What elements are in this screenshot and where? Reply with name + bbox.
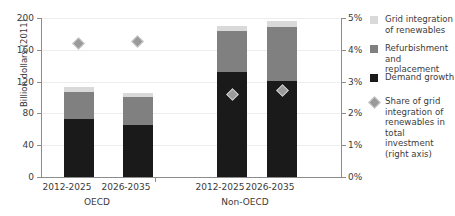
legend-label-line1: Demand growth (385, 72, 455, 83)
legend-label-line1: Share of grid (385, 96, 455, 107)
legend-label-line2: integration of (385, 107, 455, 118)
y2-tick-mark (342, 82, 346, 83)
legend-swatch-square-icon (370, 74, 378, 82)
y-tick-label-40: 40 (0, 141, 34, 150)
legend-label-line3: renewables in (385, 117, 455, 128)
y2-axis-spine (341, 18, 342, 178)
x-group-label-oecd: OECD (62, 198, 132, 207)
legend-label-line5: (right axis) (385, 149, 455, 160)
bar-segment-grid-integration (267, 21, 297, 27)
y-tick-label-200: 200 (0, 14, 34, 23)
legend-swatch-square-icon (370, 45, 378, 53)
y2-tick-mark (342, 145, 346, 146)
bar-segment-grid-integration (123, 93, 153, 97)
y-tick-label-120: 120 (0, 78, 34, 87)
bar-non-oecd-2026-2035[interactable] (267, 21, 297, 177)
legend-item-demand-growth[interactable]: Demand growth (370, 72, 455, 84)
bar-segment-refurbishment (123, 97, 153, 125)
y2-tick-mark (342, 50, 346, 51)
bar-segment-refurbishment (64, 92, 94, 119)
legend-swatch-square-icon (370, 16, 378, 24)
x-tick-label-non-oecd-2026-2035: 2026-2035 (235, 183, 305, 192)
chart-container: Billion dollars (2011) 200 160 120 80 40… (0, 0, 455, 216)
marker-share-oecd-2012-2025[interactable] (72, 37, 85, 50)
legend-item-grid-integration[interactable]: Grid integration of renewables (370, 14, 455, 36)
y2-tick-label-0pct: 0% (348, 173, 378, 182)
bar-oecd-2026-2035[interactable] (123, 93, 153, 177)
y-tick-label-80: 80 (0, 109, 34, 118)
bar-segment-refurbishment (267, 27, 297, 81)
x-axis-group-separator-tick (155, 178, 156, 182)
plot-area (42, 18, 340, 177)
legend-item-refurbishment[interactable]: Refurbishment and replacement (370, 43, 455, 65)
bar-segment-demand-growth (64, 119, 94, 177)
legend: Grid integration of renewables Refurbish… (370, 14, 455, 163)
y2-tick-mark (342, 177, 346, 178)
x-axis-spine (41, 177, 341, 178)
marker-share-oecd-2026-2035[interactable] (131, 35, 144, 48)
legend-label-line1: Refurbishment (385, 43, 455, 54)
y-tick-label-0: 0 (0, 173, 34, 182)
y2-tick-mark (342, 113, 346, 114)
x-group-label-non-oecd: Non-OECD (210, 198, 280, 207)
bar-oecd-2012-2025[interactable] (64, 87, 94, 177)
bar-segment-grid-integration (217, 26, 247, 31)
x-tick-label-oecd-2026-2035: 2026-2035 (91, 183, 161, 192)
legend-swatch-diamond-icon (368, 96, 381, 109)
y-tick-label-160: 160 (0, 46, 34, 55)
legend-item-share-marker[interactable]: Share of grid integration of renewables … (370, 96, 455, 156)
legend-label-line4: total investment (385, 128, 455, 149)
legend-label-line2: of renewables (385, 25, 455, 36)
bar-segment-refurbishment (217, 31, 247, 72)
bar-segment-demand-growth (123, 125, 153, 177)
y2-tick-mark (342, 18, 346, 19)
bar-segment-grid-integration (64, 87, 94, 92)
legend-label-line1: Grid integration (385, 14, 455, 25)
bar-non-oecd-2012-2025[interactable] (217, 26, 247, 177)
